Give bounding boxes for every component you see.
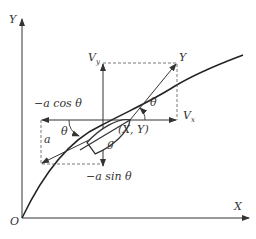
velocity-y-label: Vy (88, 52, 100, 66)
trajectory-curve (22, 55, 243, 218)
theta-lower-label: θ (61, 126, 68, 137)
theta-arc-lower (69, 120, 79, 136)
acceleration-label: a (44, 134, 51, 145)
diagram-canvas (0, 0, 256, 239)
a-sin-label: −a sin θ (86, 171, 132, 182)
a-cos-label: −a cos θ (34, 98, 82, 109)
vy-main: V (88, 51, 96, 64)
velocity-vector (130, 64, 176, 120)
position-label: (X, Y) (118, 124, 149, 135)
y-axis-label: Y (9, 14, 16, 25)
theta-arc-upper (140, 108, 145, 120)
vx-sub: x (191, 116, 195, 124)
vy-sub: y (96, 58, 100, 66)
gravity-label: g (107, 138, 114, 149)
origin-label: O (10, 216, 19, 227)
velocity-total-label: Y (179, 52, 186, 63)
trajectory-diagram: Y X O Vy Y θ Vx (X, Y) −a cos θ θ a g −a… (0, 0, 256, 239)
velocity-x-label: Vx (183, 110, 195, 124)
vx-main: V (183, 109, 191, 122)
theta-upper-label: θ (150, 97, 157, 108)
x-axis-label: X (234, 201, 242, 212)
